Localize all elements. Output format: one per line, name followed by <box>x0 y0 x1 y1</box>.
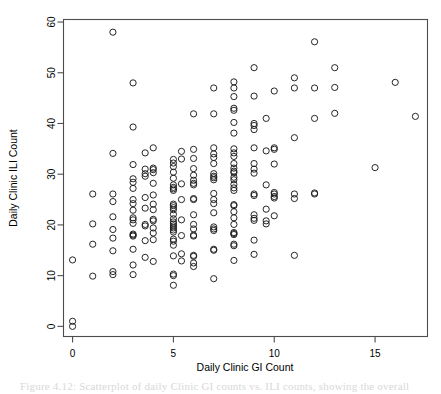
y-tick-label: 50 <box>46 67 57 79</box>
x-tick-label: 10 <box>269 348 281 359</box>
figure-background <box>0 0 441 394</box>
y-tick-label: 60 <box>46 16 57 28</box>
figure-caption-strip: Figure 4.12: Scatterplot of daily Clinic… <box>0 382 441 394</box>
figure-caption: Figure 4.12: Scatterplot of daily Clinic… <box>20 382 440 392</box>
y-tick-label: 10 <box>46 270 57 282</box>
x-axis-title: Daily Clinic GI Count <box>197 361 294 373</box>
scatter-plot-figure: 051015 0102030405060 Daily Clinic GI Cou… <box>0 0 441 394</box>
plot-canvas: 051015 0102030405060 Daily Clinic GI Cou… <box>0 0 441 394</box>
x-tick-label: 15 <box>370 348 382 359</box>
x-tick-label: 0 <box>70 348 76 359</box>
y-tick-label: 30 <box>46 168 57 180</box>
y-tick-label: 40 <box>46 117 57 129</box>
y-tick-label: 20 <box>46 219 57 231</box>
y-tick-label: 0 <box>46 323 57 329</box>
x-tick-label: 5 <box>171 348 177 359</box>
y-axis-title: Daily Clinic ILI Count <box>7 129 19 227</box>
